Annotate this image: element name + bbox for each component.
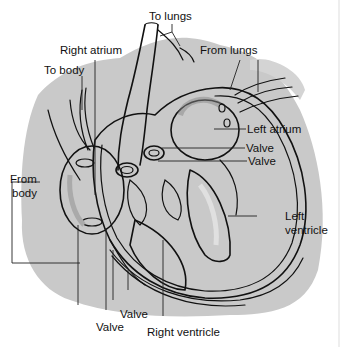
label-to-lungs: To lungs	[149, 10, 192, 22]
label-valve-upper: Valve	[246, 142, 274, 154]
label-from-body-2: body	[12, 187, 37, 199]
label-valve-lower: Valve	[248, 155, 276, 167]
label-from-body-1: From	[10, 173, 37, 185]
label-from-lungs: From lungs	[200, 44, 258, 56]
label-to-body: To body	[44, 64, 85, 76]
label-right-ventricle: Right ventricle	[147, 326, 220, 338]
heart-diagram: To lungs Right atrium To body From lungs…	[0, 0, 345, 347]
label-left-atrium: Left atrium	[247, 123, 301, 135]
label-valve-bottom-right: Valve	[120, 308, 148, 320]
label-left-ventricle-1: Left	[285, 210, 305, 222]
label-left-ventricle-2: ventricle	[285, 224, 328, 236]
label-valve-bottom-left: Valve	[96, 321, 124, 333]
label-right-atrium: Right atrium	[60, 44, 122, 56]
